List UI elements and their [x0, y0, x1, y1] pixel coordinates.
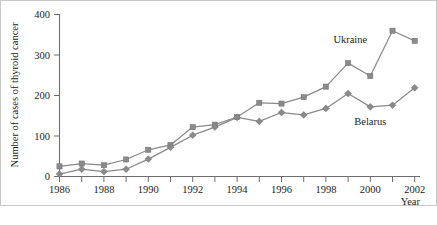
data-point-belarus-1996: [278, 109, 285, 116]
line-chart: 400 300 200 100 0 Number of cases of thy…: [1, 1, 437, 207]
data-point-belarus-1997: [300, 112, 307, 119]
chart-figure: 400 300 200 100 0 Number of cases of thy…: [0, 0, 437, 206]
data-point-belarus-1990: [145, 156, 152, 163]
series-label-belarus: Belarus: [354, 116, 386, 127]
data-point-ukraine-1996: [279, 101, 284, 106]
x-tick-label-1988: 1988: [93, 184, 114, 195]
series-layer: [56, 28, 418, 177]
data-point-belarus-1999: [345, 90, 352, 97]
data-point-ukraine-1987: [79, 161, 84, 166]
x-tick-label-1992: 1992: [182, 184, 203, 195]
data-point-ukraine-1995: [257, 100, 262, 105]
series-label-ukraine: Ukraine: [333, 34, 367, 45]
x-tick-label-1996: 1996: [271, 184, 292, 195]
data-point-ukraine-1988: [101, 163, 106, 168]
x-tick-label-1994: 1994: [227, 184, 249, 195]
x-tick-label-2002: 2002: [404, 184, 425, 195]
data-point-ukraine-2001: [390, 28, 395, 33]
x-tick-label-1998: 1998: [315, 184, 336, 195]
data-point-ukraine-2000: [368, 73, 373, 78]
data-point-ukraine-1989: [124, 157, 129, 162]
y-tick-label-0: 0: [45, 171, 50, 182]
data-point-belarus-1998: [323, 105, 330, 112]
data-point-ukraine-1999: [346, 61, 351, 66]
caption-strip: [0, 206, 437, 225]
series-ukraine: [57, 28, 417, 169]
x-tick-label-2000: 2000: [360, 184, 381, 195]
data-point-ukraine-1998: [323, 84, 328, 89]
y-tick-label-300: 300: [34, 50, 50, 61]
y-tick-label-400: 400: [34, 9, 50, 20]
data-point-belarus-1995: [256, 118, 263, 125]
data-point-ukraine-1986: [57, 164, 62, 169]
y-tick-label-100: 100: [34, 131, 50, 142]
x-axis-group: 1986 1988 1990 1992 1994 1996 1998 2000 …: [49, 177, 425, 208]
data-point-ukraine-1990: [146, 147, 151, 152]
data-point-belarus-1992: [189, 132, 196, 139]
data-point-belarus-1987: [78, 166, 85, 173]
y-axis-group: 400 300 200 100 0 Number of cases of thy…: [9, 9, 60, 182]
x-tick-label-1986: 1986: [49, 184, 70, 195]
data-point-belarus-1988: [101, 168, 108, 175]
y-tick-label-200: 200: [34, 90, 50, 101]
series-line-belarus: [60, 88, 415, 174]
data-point-ukraine-1997: [301, 95, 306, 100]
data-point-belarus-1989: [123, 166, 130, 173]
series-line-ukraine: [60, 31, 415, 167]
data-point-belarus-2000: [367, 103, 374, 110]
data-point-ukraine-2002: [412, 38, 417, 43]
data-point-ukraine-1992: [190, 124, 195, 129]
x-tick-label-1990: 1990: [138, 184, 159, 195]
y-axis-title: Number of cases of thyroid cancer: [9, 22, 20, 167]
